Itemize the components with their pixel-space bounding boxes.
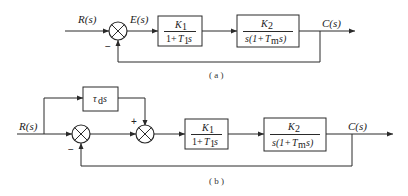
- arrow-icon: [258, 132, 264, 137]
- svg-text:s(1+: s(1+: [245, 33, 264, 45]
- output-label-b: C(s): [348, 120, 367, 133]
- block-diagrams: R(s) − E(s) K 1 1+ T 1 s K 2: [0, 0, 408, 196]
- svg-text:τ: τ: [93, 93, 97, 104]
- minus-sign-a: −: [105, 41, 111, 52]
- arrow-icon: [103, 29, 109, 34]
- svg-text:s(1+: s(1+: [272, 137, 291, 149]
- svg-text:m: m: [298, 139, 306, 150]
- arrow-icon: [79, 143, 84, 149]
- svg-text:1: 1: [209, 124, 214, 135]
- svg-text:1+: 1+: [166, 33, 177, 44]
- plant-block-b: K 2 s(1+ T m s): [264, 118, 326, 151]
- svg-text:s: s: [103, 93, 107, 104]
- summing-junction-a: [109, 22, 127, 40]
- svg-text:2: 2: [295, 123, 300, 134]
- svg-text:s): s): [306, 137, 314, 149]
- arrow-icon: [116, 40, 121, 46]
- svg-text:s: s: [214, 136, 218, 147]
- derivative-block-b: τ d s: [83, 87, 118, 111]
- arrow-icon: [349, 29, 355, 34]
- input-label-a: R(s): [77, 13, 97, 26]
- summing-junction-b2: [136, 125, 154, 143]
- svg-text:m: m: [271, 35, 279, 46]
- controller-block-b: K 1 1+ T 1 s: [185, 119, 228, 149]
- plus-sign-b: +: [131, 116, 137, 127]
- svg-text:1+: 1+: [192, 136, 203, 147]
- svg-text:2: 2: [268, 20, 273, 31]
- output-label-a: C(s): [322, 17, 341, 30]
- arrow-icon: [77, 96, 83, 101]
- input-label-b: R(s): [18, 120, 38, 133]
- summing-junction-b1: [72, 125, 90, 143]
- svg-text:s: s: [188, 33, 192, 44]
- svg-text:1: 1: [182, 21, 187, 32]
- minus-sign-b: −: [68, 144, 74, 155]
- arrow-icon: [387, 132, 393, 137]
- arrow-icon: [152, 29, 158, 34]
- arrow-icon: [231, 29, 237, 34]
- arrow-icon: [130, 132, 136, 137]
- error-label-a: E(s): [129, 13, 149, 26]
- controller-block-a: K 1 1+ T 1 s: [158, 16, 202, 46]
- caption-b: ( b ): [209, 176, 224, 186]
- diagram-b: R(s) τ d s + −: [17, 87, 393, 186]
- caption-a: ( a ): [209, 70, 224, 80]
- diagram-a: R(s) − E(s) K 1 1+ T 1 s K 2: [65, 13, 355, 80]
- svg-text:s): s): [279, 33, 287, 45]
- plant-block-a: K 2 s(1+ T m s): [237, 15, 299, 47]
- arrow-icon: [66, 132, 72, 137]
- arrow-icon: [179, 132, 185, 137]
